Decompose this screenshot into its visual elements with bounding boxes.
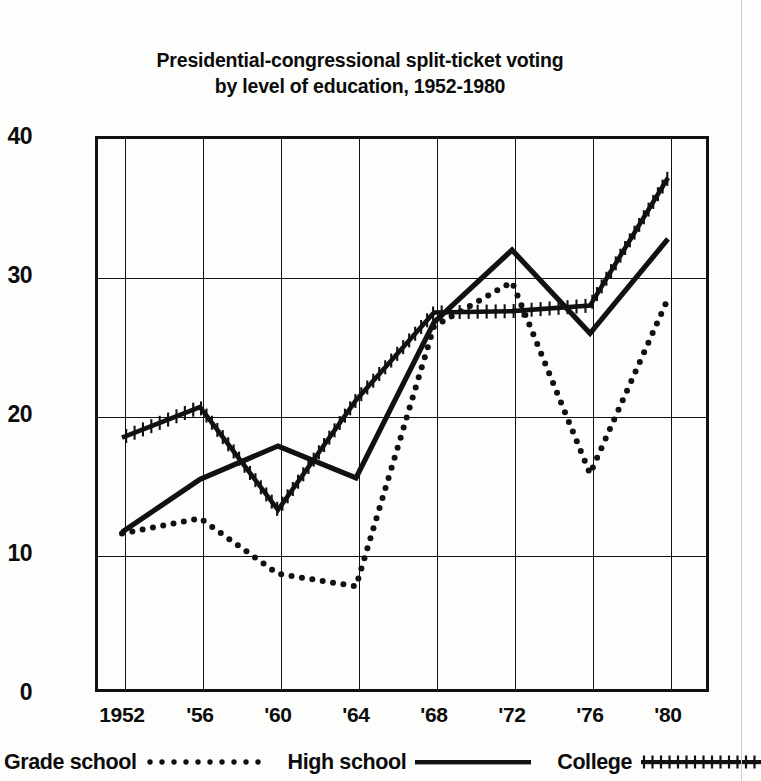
page-margin-rule bbox=[741, 0, 742, 781]
legend-label-high-school: High school bbox=[288, 750, 407, 775]
dotted-line-swatch-icon bbox=[146, 755, 262, 769]
x-tick-label-1952: 1952 bbox=[99, 703, 145, 727]
y-tick-label-0: 0 bbox=[0, 679, 32, 706]
y-tick-label-10: 10 bbox=[0, 540, 32, 567]
hatched-line-swatch-icon bbox=[641, 753, 761, 771]
chart-title-line-1: Presidential-congressional split-ticket … bbox=[0, 48, 720, 74]
x-tick-label-56: '56 bbox=[186, 703, 213, 727]
legend-item-high-school: High school bbox=[288, 750, 532, 775]
legend-item-grade-school: Grade school bbox=[4, 750, 262, 775]
x-tick-label-72: '72 bbox=[498, 703, 525, 727]
series-high-school bbox=[122, 239, 668, 532]
x-tick-label-64: '64 bbox=[342, 703, 369, 727]
series-college bbox=[122, 172, 668, 516]
chart-title: Presidential-congressional split-ticket … bbox=[0, 48, 720, 100]
x-tick-label-76: '76 bbox=[576, 703, 603, 727]
legend-label-grade-school: Grade school bbox=[4, 750, 137, 775]
x-axis: 1952'56'60'64'68'72'76'80 bbox=[0, 703, 750, 743]
chart-legend: Grade school High school bbox=[0, 743, 750, 781]
chart-title-line-2: by level of education, 1952-1980 bbox=[0, 74, 720, 100]
legend-item-college: College bbox=[557, 750, 761, 775]
x-tick-label-68: '68 bbox=[420, 703, 447, 727]
y-tick-label-20: 20 bbox=[0, 401, 32, 428]
x-tick-label-80: '80 bbox=[654, 703, 681, 727]
legend-label-college: College bbox=[557, 750, 632, 775]
solid-line-swatch-icon bbox=[415, 755, 531, 769]
x-tick-label-60: '60 bbox=[264, 703, 291, 727]
y-tick-label-40: 40 bbox=[0, 123, 32, 150]
y-tick-label-30: 30 bbox=[0, 262, 32, 289]
data-series-layer bbox=[95, 136, 709, 692]
